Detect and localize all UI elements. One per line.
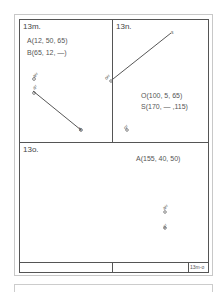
line-os-top — [113, 33, 171, 79]
next-sheet-edge — [14, 284, 213, 292]
point-a2-h-marker — [164, 211, 167, 214]
point-o-f-marker — [126, 129, 129, 132]
point-a2-f-marker — [164, 227, 167, 230]
line-ab-front — [33, 91, 81, 130]
point-o-h-marker — [110, 80, 113, 83]
point-a-h-marker — [33, 78, 36, 81]
